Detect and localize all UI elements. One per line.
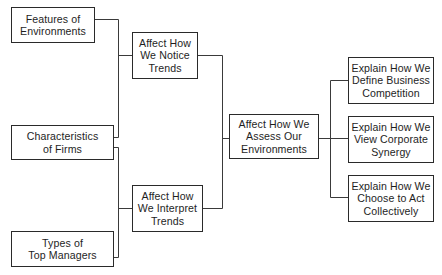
- node-label: Features of Environments: [20, 13, 86, 38]
- node-explain-act-collectively: Explain How We Choose to Act Collectivel…: [348, 175, 434, 222]
- node-label: Affect How We Interpret Trends: [138, 190, 197, 227]
- node-label: Types of Top Managers: [28, 237, 96, 262]
- connector-characteristics-interpret: [114, 148, 119, 258]
- node-label: Explain How We Choose to Act Collectivel…: [352, 180, 431, 217]
- node-features-of-environments: Features of Environments: [11, 7, 95, 43]
- node-affect-interpret-trends: Affect How We Interpret Trends: [132, 185, 203, 232]
- node-explain-define-competition: Explain How We Define Business Competiti…: [348, 57, 434, 104]
- flow-diagram: Features of Environments Characteristics…: [0, 0, 442, 275]
- node-explain-corporate-synergy: Explain How We View Corporate Synergy: [348, 116, 434, 163]
- connector-features-notice: [95, 20, 119, 138]
- node-affect-assess-environments: Affect How We Assess Our Environments: [229, 114, 319, 159]
- node-label: Affect How We Assess Our Environments: [239, 118, 310, 155]
- node-affect-notice-trends: Affect How We Notice Trends: [132, 32, 198, 79]
- node-label: Characteristics of Firms: [27, 130, 99, 155]
- node-label: Affect How We Notice Trends: [139, 37, 191, 74]
- node-label: Explain How We View Corporate Synergy: [352, 121, 431, 158]
- node-types-of-top-managers: Types of Top Managers: [11, 231, 114, 267]
- node-characteristics-of-firms: Characteristics of Firms: [11, 125, 114, 160]
- node-label: Explain How We Define Business Competiti…: [352, 62, 431, 99]
